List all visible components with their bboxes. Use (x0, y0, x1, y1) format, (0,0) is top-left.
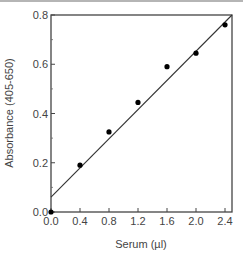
data-points (48, 22, 227, 214)
fit-line (51, 15, 232, 197)
plot-frame (51, 15, 232, 212)
x-tick-label: 0.8 (101, 215, 116, 227)
x-axis: 0.00.40.81.21.62.02.4 (43, 208, 232, 227)
x-tick-label: 0.4 (72, 215, 87, 227)
y-tick-label: 0.4 (33, 108, 48, 120)
data-point (106, 129, 111, 134)
x-tick-label: 2.0 (188, 215, 203, 227)
x-tick-label: 1.6 (159, 215, 174, 227)
x-tick-label: 1.2 (130, 215, 145, 227)
y-axis: 0.00.20.40.60.8 (33, 9, 55, 218)
y-tick-label: 0.2 (33, 157, 48, 169)
y-tick-label: 0.6 (33, 58, 48, 70)
y-axis-title: Absorbance (405-650) (3, 58, 15, 167)
x-tick-label: 0.0 (43, 215, 58, 227)
data-point (48, 209, 53, 214)
data-point (164, 64, 169, 69)
data-point (77, 163, 82, 168)
scatter-chart: 0.00.20.40.60.8 0.00.40.81.21.62.02.4 Se… (0, 0, 243, 257)
data-point (135, 100, 140, 105)
data-point (222, 22, 227, 27)
regression-line (51, 15, 232, 197)
data-point (193, 51, 198, 56)
x-tick-label: 2.4 (217, 215, 232, 227)
x-axis-title: Serum (µl) (115, 238, 167, 250)
y-tick-label: 0.8 (33, 9, 48, 21)
plot-border (51, 15, 232, 212)
